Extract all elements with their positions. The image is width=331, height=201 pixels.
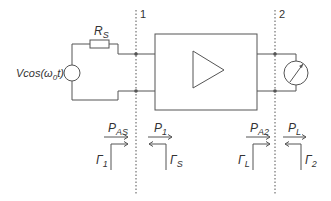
plane-2-label: 2: [279, 8, 285, 20]
source-resistor: [90, 40, 109, 48]
source-loop: [72, 44, 155, 100]
power-label-p1: P1: [154, 121, 167, 137]
load-loop: [257, 54, 296, 91]
power-label-pa2: PA2: [250, 121, 269, 137]
amplifier-block: [155, 34, 257, 110]
gamma-label-2: Γ2: [305, 153, 317, 169]
gamma-label-s: ΓS: [170, 153, 183, 169]
power-label-pl: PL: [288, 121, 301, 137]
plane-1-label: 1: [140, 8, 146, 20]
power-label-pas: PAS: [108, 121, 128, 137]
resistor-label: RS: [94, 24, 109, 40]
gamma-label-l: ΓL: [238, 153, 250, 169]
voltage-source-icon: [64, 65, 80, 81]
gamma-label-1: Γ1: [96, 153, 108, 169]
amplifier-triangle-icon: [193, 51, 224, 88]
source-label: Vcos(ω0t): [16, 67, 64, 82]
circuit-diagram: 1 2 RS Vcos(ω0t) PAS P1 PA2 PL Γ1 ΓS ΓL …: [0, 0, 331, 201]
